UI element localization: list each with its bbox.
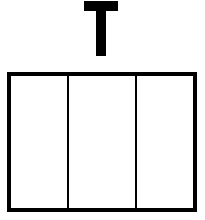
three-column-box bbox=[7, 72, 197, 212]
letter-t-label: T bbox=[84, 1, 118, 56]
column-divider-1 bbox=[67, 76, 69, 208]
column-divider-2 bbox=[135, 76, 137, 208]
letter-t-stem bbox=[96, 1, 106, 56]
